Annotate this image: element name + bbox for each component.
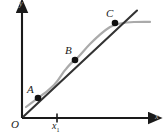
point-b-label: B (65, 45, 72, 56)
point-c-marker (112, 20, 119, 27)
point-a-marker (35, 95, 42, 102)
x-tick-label: x1 (52, 121, 59, 133)
math-figure: A B C O x1 x y (0, 0, 163, 133)
point-c-label: C (106, 8, 113, 19)
x-tick-label-sub: 1 (56, 127, 59, 133)
point-b-marker (72, 57, 79, 64)
figure-canvas (0, 0, 163, 133)
y-axis-label: y (19, 0, 23, 8)
x-axis-label: x (155, 113, 159, 121)
sigmoid-curve (26, 22, 150, 107)
point-a-label: A (27, 84, 34, 95)
straight-line (24, 11, 138, 117)
origin-label: O (11, 119, 19, 130)
